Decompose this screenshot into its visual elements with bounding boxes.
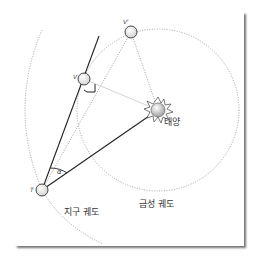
angle-label: α <box>57 169 62 176</box>
venus-label: V <box>73 74 77 80</box>
venus-prime-label: V' <box>123 19 129 25</box>
line-earth-venus-prime <box>42 32 131 190</box>
venus-prime-planet <box>125 26 137 38</box>
earth-label: T <box>30 187 34 193</box>
line-venus-prime-sun <box>131 32 158 110</box>
venus-orbit-label: 금성 궤도 <box>139 200 174 209</box>
earth-orbit-label: 지구 궤도 <box>64 208 99 217</box>
venus-planet <box>78 73 90 85</box>
sun-label: 태양 <box>164 118 180 127</box>
orbit-diagram <box>0 0 262 271</box>
line-earth-sun <box>42 114 152 190</box>
earth-planet <box>36 184 48 196</box>
tangent-line <box>42 36 99 190</box>
line-venus-sun <box>84 79 158 110</box>
